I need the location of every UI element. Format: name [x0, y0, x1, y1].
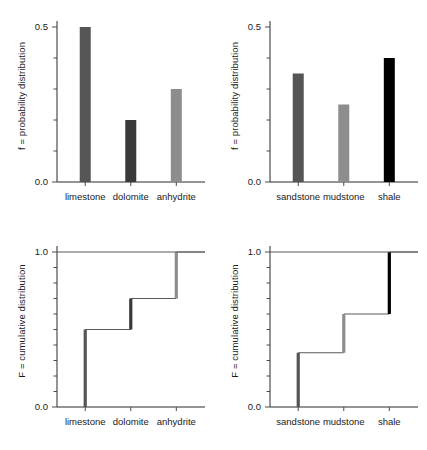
panel-siliciclastic-pdf: f = probability distribution 0.00.5sands… [213, 0, 427, 225]
svg-text:1.0: 1.0 [35, 246, 48, 257]
bar [125, 120, 136, 182]
figure-grid: f = probability distribution 0.00.5limes… [0, 0, 427, 450]
svg-text:0.0: 0.0 [35, 401, 48, 412]
bar [293, 74, 304, 183]
plot-area-siliciclastic-cdf: 0.01.0sandstonemudstoneshale [213, 225, 427, 450]
svg-text:0.0: 0.0 [248, 176, 261, 187]
panel-carbonate-pdf: f = probability distribution 0.00.5limes… [0, 0, 213, 225]
bar [338, 105, 349, 183]
category-label: limestone [65, 416, 106, 427]
plot-area-carbonate-cdf: 0.01.0limestonedolomiteanhydrite [0, 225, 213, 450]
step-riser [84, 330, 87, 408]
plot-area-carbonate-pdf: 0.00.5limestonedolomiteanhydrite [0, 0, 213, 225]
category-label: limestone [65, 191, 106, 202]
bar [171, 89, 182, 182]
category-label: shale [378, 191, 401, 202]
plot-area-siliciclastic-pdf: 0.00.5sandstonemudstoneshale [213, 0, 427, 225]
bar-chart-siliciclastics: 0.00.5sandstonemudstoneshale [213, 0, 427, 225]
category-label: dolomite [113, 416, 149, 427]
category-label: mudstone [323, 416, 365, 427]
svg-text:0.5: 0.5 [248, 21, 261, 32]
step-riser [342, 314, 345, 353]
step-chart-siliciclastics: 0.01.0sandstonemudstoneshale [213, 225, 427, 450]
category-label: sandstone [276, 416, 320, 427]
category-label: mudstone [323, 191, 365, 202]
step-riser [129, 299, 132, 330]
step-chart-carbonates: 0.01.0limestonedolomiteanhydrite [0, 225, 213, 450]
step-riser [175, 252, 178, 299]
category-label: sandstone [276, 191, 320, 202]
step-riser [388, 252, 391, 314]
step-riser [297, 353, 300, 407]
bar-chart-carbonates: 0.00.5limestonedolomiteanhydrite [0, 0, 213, 225]
panel-siliciclastic-cdf: F = cumulative distribution 0.01.0sandst… [213, 225, 427, 450]
svg-text:0.0: 0.0 [248, 401, 261, 412]
svg-text:0.0: 0.0 [35, 176, 48, 187]
category-label: shale [378, 416, 401, 427]
svg-text:0.5: 0.5 [35, 21, 48, 32]
category-label: anhydrite [157, 416, 196, 427]
bar [384, 58, 395, 182]
category-label: anhydrite [157, 191, 196, 202]
svg-text:1.0: 1.0 [248, 246, 261, 257]
bar [80, 27, 91, 182]
category-label: dolomite [113, 191, 149, 202]
panel-carbonate-cdf: F = cumulative distribution 0.01.0limest… [0, 225, 213, 450]
